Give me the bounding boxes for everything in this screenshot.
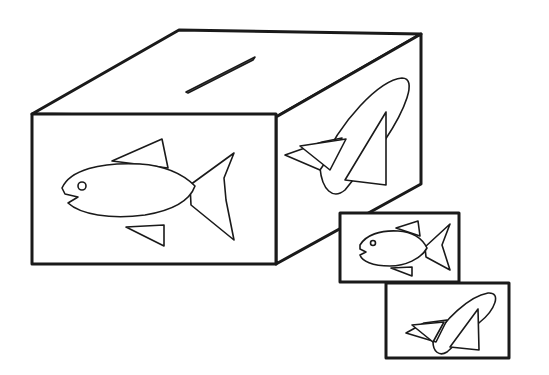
ballot-box-illustration xyxy=(0,0,549,375)
ballot-card-fish xyxy=(340,213,459,282)
ballot-card-space-shuttle xyxy=(386,283,509,358)
